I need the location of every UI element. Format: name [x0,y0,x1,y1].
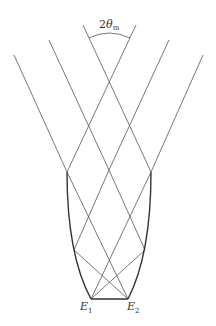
cpc-diagram [0,0,216,326]
inner-ray-4 [109,170,145,250]
inner-ray-3 [74,170,109,250]
incoming-ray-left-1 [14,55,67,172]
acceptance-angle-arc [89,33,130,38]
acceptance-angle-label: 2θm [99,18,119,32]
edge-label-e1: E1 [80,300,93,315]
incoming-ray-left-3 [83,25,151,172]
left-parabolic-wall [67,172,91,299]
edge-label-e2: E2 [127,300,140,315]
inner-ray-5 [74,250,128,299]
incoming-ray-right-2 [109,40,169,170]
incoming-ray-right-1 [151,55,203,172]
inner-ray-6 [91,250,145,299]
incoming-ray-right-3 [67,25,136,172]
right-parabolic-wall [128,172,151,299]
incoming-ray-left-2 [49,40,109,170]
